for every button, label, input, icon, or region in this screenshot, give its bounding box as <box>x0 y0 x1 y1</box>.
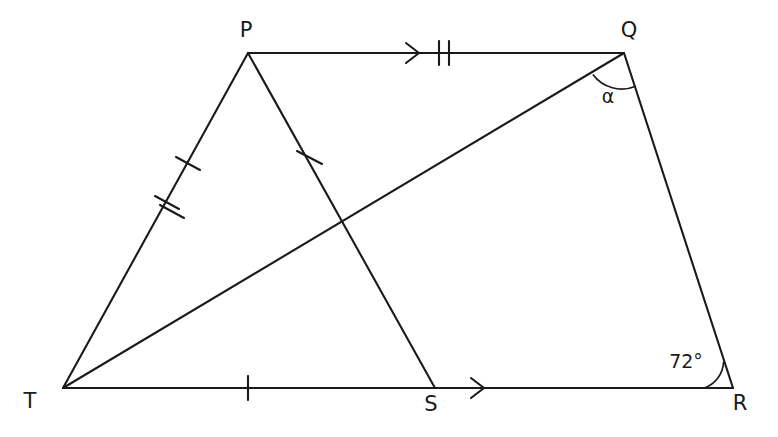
angle-arc-q <box>593 75 636 90</box>
vertex-label-P: P <box>240 18 253 42</box>
vertex-label-S: S <box>424 392 437 416</box>
geometry-diagram: P Q R S T α 72° <box>0 0 778 437</box>
geometry-figure-canvas: P Q R S T α 72° <box>0 0 778 437</box>
angle-label-72-degrees: 72° <box>669 350 703 372</box>
vertex-label-Q: Q <box>621 18 638 42</box>
angle-arc-r <box>704 362 724 388</box>
vertex-label-T: T <box>23 389 37 413</box>
tick-tp-single <box>176 157 200 170</box>
segment-PS <box>248 53 435 388</box>
angle-label-alpha: α <box>602 85 615 107</box>
segment-TQ <box>63 53 624 388</box>
vertex-label-R: R <box>733 391 748 415</box>
segment-QR <box>624 53 733 388</box>
tick-tp-double-b <box>160 205 184 218</box>
segment-TP <box>63 53 248 388</box>
